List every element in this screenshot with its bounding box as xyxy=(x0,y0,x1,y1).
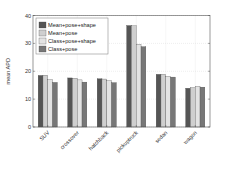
bar xyxy=(107,81,112,127)
bar xyxy=(195,86,200,127)
bar xyxy=(200,87,205,127)
bar xyxy=(131,26,136,127)
bar xyxy=(82,82,87,127)
legend-label: Mean+pose+shape xyxy=(48,22,96,28)
bar xyxy=(112,83,117,127)
bar xyxy=(127,26,132,127)
x-tick-label: crossover xyxy=(59,129,80,150)
legend-label: Class+pose xyxy=(48,46,77,52)
bar xyxy=(68,78,73,127)
plot-area: 010203040SUVcrossoverhatchbackpickuptruc… xyxy=(5,13,210,154)
bar xyxy=(171,77,176,127)
bar xyxy=(38,75,43,127)
legend-swatch xyxy=(39,30,46,36)
bar xyxy=(136,44,141,127)
legend-swatch xyxy=(39,46,46,52)
bar-chart: 010203040SUVcrossoverhatchbackpickuptruc… xyxy=(0,0,225,169)
legend-swatch xyxy=(39,38,46,44)
bar xyxy=(48,80,53,127)
bar xyxy=(72,78,77,127)
y-tick-label: 40 xyxy=(25,13,31,19)
bar xyxy=(43,75,48,127)
bar xyxy=(97,79,102,127)
y-tick-label: 0 xyxy=(28,124,31,130)
bar xyxy=(102,79,107,127)
y-axis-label: mean APD xyxy=(5,58,11,84)
legend-swatch xyxy=(39,22,46,28)
bar xyxy=(186,88,191,127)
x-tick-label: wagon xyxy=(182,129,198,145)
legend-label: Class+pose+shape xyxy=(48,38,96,44)
bar xyxy=(141,47,146,127)
x-tick-label: pickuptruck xyxy=(115,129,139,153)
y-tick-label: 30 xyxy=(25,40,31,46)
y-tick-label: 10 xyxy=(25,96,31,102)
bar xyxy=(161,74,166,127)
bar xyxy=(190,88,195,127)
bar xyxy=(166,76,171,127)
y-tick-label: 20 xyxy=(25,68,31,74)
x-tick-label: SUV xyxy=(38,129,50,141)
bar xyxy=(53,82,58,127)
bar xyxy=(156,74,161,127)
x-tick-label: hatchback xyxy=(87,129,109,151)
legend-label: Mean+pose xyxy=(48,30,77,36)
x-tick-label: sedan xyxy=(154,129,169,144)
bar xyxy=(77,80,82,127)
